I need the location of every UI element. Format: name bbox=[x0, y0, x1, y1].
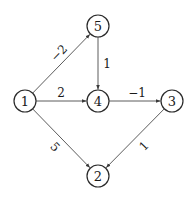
node-3: 3 bbox=[161, 90, 183, 112]
node-5: 5 bbox=[87, 15, 109, 37]
edge-weight-1-to-4: 2 bbox=[57, 86, 65, 100]
node-1: 1 bbox=[14, 90, 36, 112]
directed-graph: −2251−11 15432 bbox=[0, 0, 195, 200]
edge-1-to-2 bbox=[33, 109, 90, 168]
edge-3-to-2 bbox=[106, 109, 164, 168]
node-2: 2 bbox=[87, 165, 109, 187]
edge-weight-1-to-5: −2 bbox=[48, 42, 70, 64]
edge-weight-3-to-2: 1 bbox=[136, 138, 151, 153]
node-label: 3 bbox=[168, 94, 176, 109]
edge-weight-5-to-4: 1 bbox=[103, 57, 111, 71]
node-label: 5 bbox=[94, 19, 102, 34]
node-label: 1 bbox=[21, 94, 29, 109]
node-4: 4 bbox=[87, 90, 109, 112]
node-label: 4 bbox=[94, 94, 102, 109]
edge-weight-1-to-2: 5 bbox=[47, 139, 62, 154]
edge-weight-4-to-3: −1 bbox=[128, 86, 146, 100]
node-label: 2 bbox=[94, 169, 102, 184]
